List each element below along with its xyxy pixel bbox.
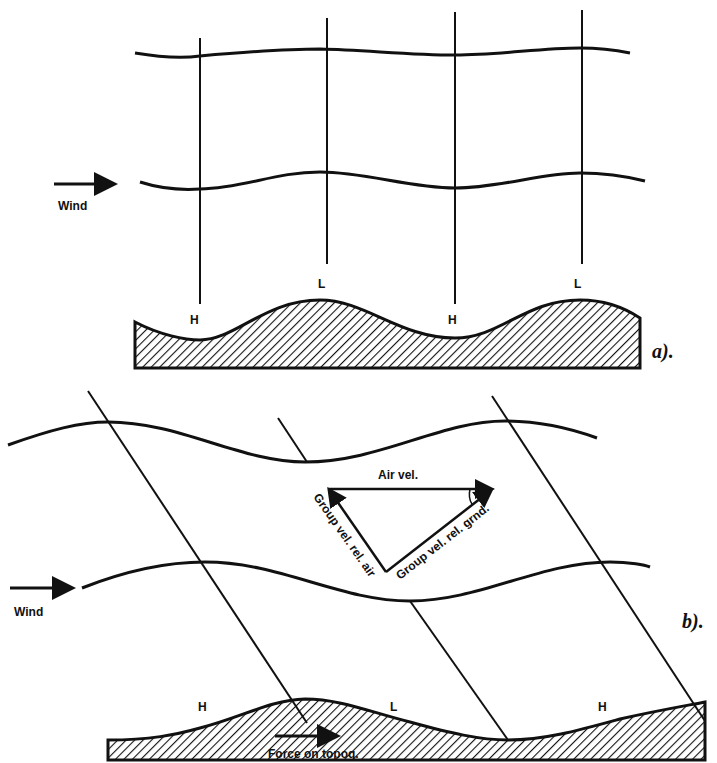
label-h1-b: H (198, 700, 207, 714)
wave-diagram: Wind H L H L a). Air vel. Group vel. rel… (0, 0, 717, 763)
air-vel-label: Air vel. (378, 468, 418, 482)
slant-line-2 (278, 418, 307, 462)
panel-a (54, 10, 645, 368)
label-l1-a: L (318, 277, 325, 291)
group-vel-rel-grnd-arrow (386, 491, 490, 572)
panel-tag-a: a). (652, 340, 674, 363)
label-h2-a: H (448, 313, 457, 327)
topography-a (135, 300, 640, 368)
label-h2-b: H (598, 700, 607, 714)
label-h1-a: H (190, 313, 199, 327)
angle-arc (469, 489, 472, 504)
middle-wave-a (140, 172, 645, 189)
label-l2-a: L (574, 277, 581, 291)
upper-wave-a (135, 48, 630, 57)
slant-line-1 (88, 391, 307, 723)
slant-line-3 (410, 601, 508, 740)
wind-label-b: Wind (14, 605, 43, 619)
group-vel-rel-grnd-label: Group vel. rel. grnd. (393, 501, 491, 582)
group-vel-rel-air-label: Group vel. rel. air (311, 491, 379, 580)
panel-tag-b: b). (682, 610, 704, 633)
slant-line-4 (492, 396, 705, 721)
wind-label-a: Wind (58, 199, 87, 213)
label-l1-b: L (390, 700, 397, 714)
force-label: Force on topog. (268, 747, 359, 761)
